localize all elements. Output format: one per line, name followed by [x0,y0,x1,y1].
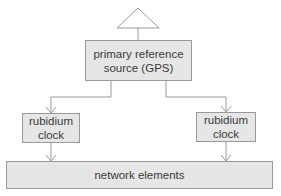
primary-reference-source-label: primary reference source (GPS) [93,47,183,75]
antenna-triangle-icon [117,8,159,28]
primary-reference-source-box: primary reference source (GPS) [85,40,192,81]
rubidium-clock-left-box: rubidium clock [22,113,80,143]
network-elements-box: network elements [6,161,273,189]
network-elements-label: network elements [94,168,184,182]
rubidium-clock-left-label: rubidium clock [29,114,73,142]
rubidium-clock-right-box: rubidium clock [196,112,256,142]
rubidium-clock-right-label: rubidium clock [204,113,248,141]
